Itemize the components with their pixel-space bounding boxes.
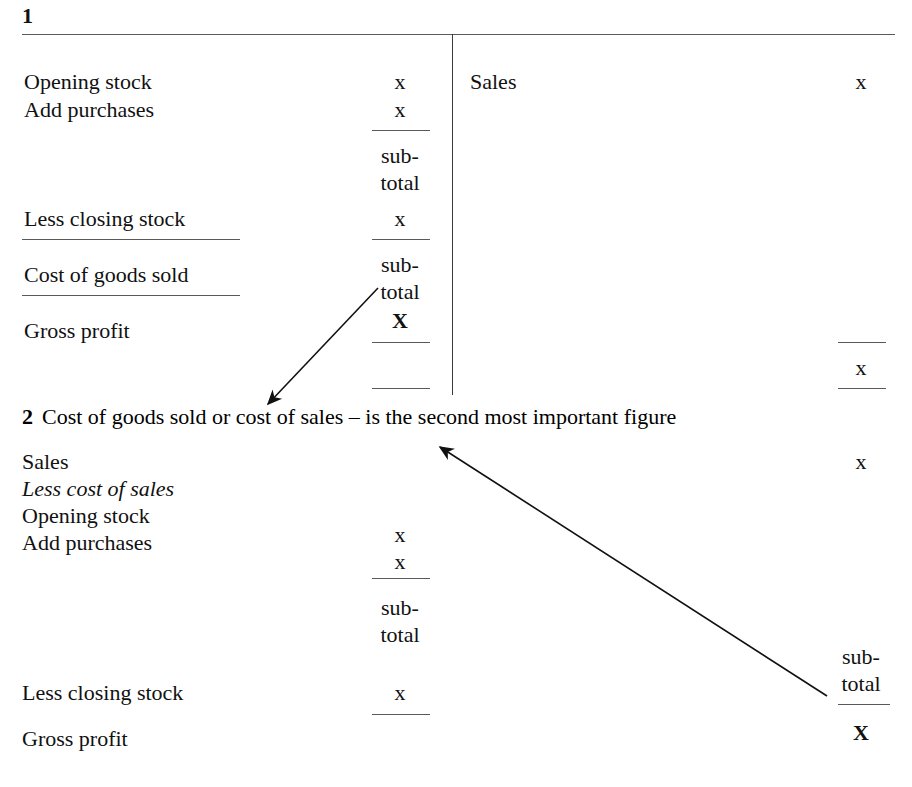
row-label-cost-of-goods-sold: Cost of goods sold [24,264,188,286]
amount-less-closing-stock: x [395,208,406,230]
s2-row-label-less-closing-stock: Less closing stock [22,682,183,704]
document-page: 1 Opening stock Add purchases Less closi… [0,0,912,787]
s2-amount-add-purchases: x [395,551,406,573]
rule-above-second-subtotal [372,239,430,240]
s2-row-label-less-cost-of-sales: Less cost of sales [22,478,174,500]
s2-amount-subtotal-line2: total [380,624,419,646]
amount-credit-total: x [856,357,867,379]
arrow-subtotal-to-cost-of-sales [440,447,827,696]
rule-below-gross-profit [372,342,430,343]
amount-subtotal-line2: total [380,172,419,194]
s2-rule-above-gross-profit [838,704,890,705]
amount-sales-credit: x [856,71,867,93]
section-two-number: 2 [22,404,33,429]
s2-amount-cos-subtotal-line2: total [841,673,880,695]
section-two-heading: 2Cost of goods sold or cost of sales – i… [22,406,676,428]
s2-amount-cos-subtotal-line1: sub- [842,646,880,668]
arrow-cost-of-goods-sold-to-heading [268,288,378,404]
s2-row-label-add-purchases: Add purchases [22,532,152,554]
s2-rule-under-less-closing-stock [372,714,430,715]
section-two-heading-text: Cost of goods sold or cost of sales – is… [42,404,676,429]
s2-amount-sales: x [856,451,867,473]
rule-under-less-closing-stock [22,239,240,240]
s2-row-label-gross-profit: Gross profit [22,728,128,750]
rule-debit-total [372,388,430,389]
section-one-number: 1 [22,5,33,27]
rule-above-first-subtotal [372,130,430,131]
row-label-opening-stock: Opening stock [24,71,152,93]
row-label-less-closing-stock: Less closing stock [24,208,185,230]
s2-amount-subtotal-line1: sub- [381,597,419,619]
row-label-sales-credit: Sales [470,71,516,93]
amount-gross-profit: X [392,310,408,332]
s2-amount-less-closing-stock: x [395,682,406,704]
rule-above-credit-total [838,342,886,343]
row-label-gross-profit: Gross profit [24,320,130,342]
amount-opening-stock: x [395,71,406,93]
amount-cogs-subtotal-line2: total [380,281,419,303]
s2-rule-above-subtotal [372,578,430,579]
amount-add-purchases: x [395,99,406,121]
rule-under-cost-of-goods-sold [22,295,240,296]
s2-amount-opening-stock: x [395,524,406,546]
amount-cogs-subtotal-line1: sub- [381,254,419,276]
s2-row-label-opening-stock: Opening stock [22,505,150,527]
s2-row-label-sales: Sales [22,451,68,473]
rule-below-credit-total [838,388,886,389]
section-one-vertical-divider [452,34,453,395]
amount-subtotal-line1: sub- [381,145,419,167]
section-one-top-rule [22,34,895,35]
row-label-add-purchases: Add purchases [24,99,154,121]
s2-amount-gross-profit: X [853,722,869,744]
